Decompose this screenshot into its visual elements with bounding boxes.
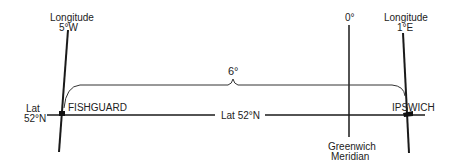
ipswich-label: IPSWICH [392,102,435,113]
lat-left-value: 52°N [24,113,46,124]
meridian-5w-value: 5°W [59,22,78,33]
lat-center-label: Lat 52°N [221,110,260,121]
longitude-diagram: Longitude 5°W Longitude 1°E 0° Greenwich… [0,0,454,166]
prime-meridian-label: 0° [345,12,355,23]
meridian-1e-value: 1°E [397,22,413,33]
fishguard-label: FISHGUARD [68,102,127,113]
meridian-label: Meridian [331,151,369,162]
fishguard-marker [59,111,65,116]
span-label: 6° [228,66,239,77]
meridian-5w-line [59,30,68,152]
